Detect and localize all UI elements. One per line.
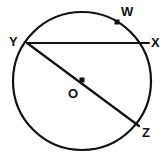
vertex-label-x: X	[151, 36, 160, 49]
circle-geometry-figure: W Y X O Z	[0, 0, 168, 161]
vertex-label-w: W	[121, 5, 133, 18]
center-label-o: O	[68, 87, 78, 100]
vertex-label-z: Z	[142, 126, 150, 139]
vertex-label-y: Y	[9, 35, 18, 48]
point-w-dot	[115, 20, 120, 25]
diameter-yz-segment	[27, 43, 139, 126]
center-point-dot	[80, 78, 85, 83]
